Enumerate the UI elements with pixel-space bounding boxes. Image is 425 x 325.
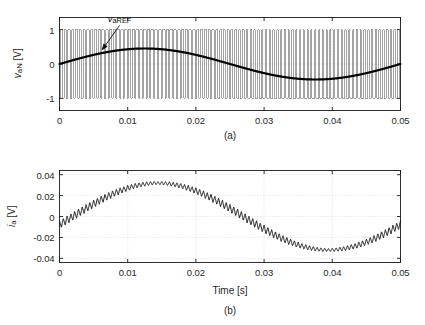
- axis-b-ytick-004: -0.04: [33, 253, 54, 264]
- axis-b-xtick-0: 0: [57, 267, 62, 278]
- axis-b-xtick-001: 0.01: [119, 267, 137, 278]
- subplot-b-caption: (b): [224, 305, 236, 316]
- axis-b-xtick-005: 0.05: [391, 267, 409, 278]
- axis-a-xtick-0: 0: [57, 115, 62, 126]
- axis-b-ytick-002: -0.02: [33, 232, 54, 243]
- axis-b-xtick-004: 0.04: [323, 267, 341, 278]
- axis-a-xtick-001: 0.01: [119, 115, 137, 126]
- axis-b-x-title: Time [s]: [212, 285, 247, 296]
- axis-a-xtick-004: 0.04: [323, 115, 341, 126]
- axis-b-ytick-0: 0: [49, 211, 54, 222]
- subplot-b: -0.04 -0.02 0 0.02 0.04 0 0.01 0.02 0.03…: [0, 152, 425, 325]
- axis-a-y-title: vaN [V]: [12, 33, 24, 93]
- axis-b-y-title-unit: [V]: [6, 205, 17, 220]
- axis-a-ytick-m1: 1: [49, 24, 54, 35]
- annotation-varef: vaREF: [108, 13, 132, 25]
- axis-a-xtick-003: 0.03: [255, 115, 273, 126]
- subplot-a-canvas: [0, 0, 425, 152]
- annotation-varef-sub: aREF: [112, 17, 131, 26]
- figure-root: -1 0 1 0 0.01 0.02 0.03 0.04 0.05 vaN [V…: [0, 0, 425, 325]
- subplot-a: -1 0 1 0 0.01 0.02 0.03 0.04 0.05 vaN [V…: [0, 0, 425, 152]
- axis-b-xtick-002: 0.02: [187, 267, 205, 278]
- axis-b-ytick-m002: 0.02: [36, 190, 54, 201]
- axis-a-ytick-0: 0: [49, 59, 54, 70]
- subplot-b-canvas: [0, 152, 425, 325]
- axis-b-xtick-003: 0.03: [255, 267, 273, 278]
- axis-a-ytick-1: -1: [46, 93, 54, 104]
- axis-a-y-title-main: v: [12, 73, 23, 78]
- axis-a-y-title-unit: [V]: [12, 48, 23, 63]
- axis-b-ytick-m004: 0.04: [36, 169, 54, 180]
- axis-a-y-title-sub: aN: [15, 63, 24, 73]
- axis-b-y-title: ia [V]: [6, 190, 18, 242]
- subplot-a-caption: (a): [224, 130, 236, 141]
- axis-a-xtick-002: 0.02: [187, 115, 205, 126]
- axis-a-xtick-005: 0.05: [391, 115, 409, 126]
- axis-b-y-title-sub: a: [9, 220, 18, 224]
